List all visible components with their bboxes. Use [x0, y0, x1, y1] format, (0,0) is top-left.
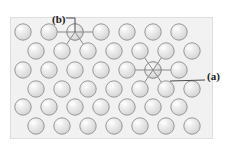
callout-label-b: (b) [52, 14, 65, 25]
atom [15, 62, 31, 78]
atom [158, 81, 174, 97]
lattice-canvas [0, 0, 231, 156]
atom [184, 43, 200, 59]
atom-sphere [119, 99, 135, 115]
atom-sphere [145, 99, 161, 115]
atom-highlight [109, 121, 114, 125]
atom [28, 81, 44, 97]
atom-highlight [96, 65, 101, 69]
atom-sphere [158, 118, 174, 134]
atom-highlight [135, 121, 140, 125]
atom-highlight [31, 46, 36, 50]
atom-highlight [31, 84, 36, 88]
atom-sphere [184, 43, 200, 59]
atom-highlight [57, 121, 62, 125]
atom [15, 99, 31, 115]
atom [28, 43, 44, 59]
atom [54, 118, 70, 134]
atom-highlight [70, 65, 75, 69]
atom-highlight [161, 84, 166, 88]
atom-highlight [57, 46, 62, 50]
atom-sphere [28, 81, 44, 97]
atom [171, 24, 187, 40]
atom [106, 43, 122, 59]
atom-sphere [119, 62, 135, 78]
atom [158, 43, 174, 59]
atom [106, 81, 122, 97]
atom [158, 118, 174, 134]
atom-sphere [184, 81, 200, 97]
atom-highlight [83, 84, 88, 88]
atom-sphere [106, 43, 122, 59]
atom-sphere [41, 99, 57, 115]
atom-sphere [93, 24, 109, 40]
atom-sphere [106, 118, 122, 134]
atom [119, 24, 135, 40]
atom [171, 99, 187, 115]
atom-sphere [80, 81, 96, 97]
atom [54, 81, 70, 97]
atom-sphere [132, 118, 148, 134]
atom-highlight [122, 65, 127, 69]
atom-highlight [135, 46, 140, 50]
atom-sphere [54, 43, 70, 59]
atom-sphere [171, 62, 187, 78]
atom-highlight [83, 46, 88, 50]
atom-highlight [174, 65, 179, 69]
atom-highlight [148, 27, 153, 31]
atom-highlight [18, 27, 23, 31]
atom-highlight [96, 102, 101, 106]
atom-highlight [148, 102, 153, 106]
atom [41, 24, 57, 40]
atom-sphere [158, 81, 174, 97]
atom [54, 43, 70, 59]
atom [80, 81, 96, 97]
atom-sphere [158, 43, 174, 59]
atom [145, 24, 161, 40]
atom-highlight [109, 46, 114, 50]
atom-sphere [28, 118, 44, 134]
atom-highlight [18, 102, 23, 106]
atom [132, 118, 148, 134]
atom-highlight [122, 27, 127, 31]
atom [41, 62, 57, 78]
atom-sphere [41, 62, 57, 78]
atom [41, 99, 57, 115]
atom-sphere [54, 81, 70, 97]
lattice-figure: (b) (a) [0, 0, 231, 156]
atom-highlight [44, 102, 49, 106]
atom-highlight [187, 46, 192, 50]
atom-highlight [83, 121, 88, 125]
atom-highlight [31, 121, 36, 125]
atom-sphere [15, 24, 31, 40]
atom-sphere [132, 43, 148, 59]
atom-sphere [28, 43, 44, 59]
atom [93, 99, 109, 115]
atom [132, 81, 148, 97]
atom-sphere [171, 24, 187, 40]
atom-highlight [109, 84, 114, 88]
atom-highlight [161, 46, 166, 50]
atom-sphere [15, 99, 31, 115]
atom-sphere [67, 99, 83, 115]
atom-highlight [174, 102, 179, 106]
atom-highlight [96, 27, 101, 31]
atom [132, 43, 148, 59]
atom-sphere [106, 81, 122, 97]
atom [171, 62, 187, 78]
atom-highlight [187, 84, 192, 88]
atom-highlight [161, 121, 166, 125]
atom-highlight [122, 102, 127, 106]
atom-sphere [171, 99, 187, 115]
atom-highlight [187, 121, 192, 125]
atom-sphere [80, 43, 96, 59]
atom-sphere [15, 62, 31, 78]
atom-highlight [135, 84, 140, 88]
atom-highlight [44, 27, 49, 31]
atom [80, 118, 96, 134]
atom [184, 118, 200, 134]
atom-sphere [41, 24, 57, 40]
atom [93, 24, 109, 40]
atom-sphere [93, 99, 109, 115]
atom-sphere [119, 24, 135, 40]
